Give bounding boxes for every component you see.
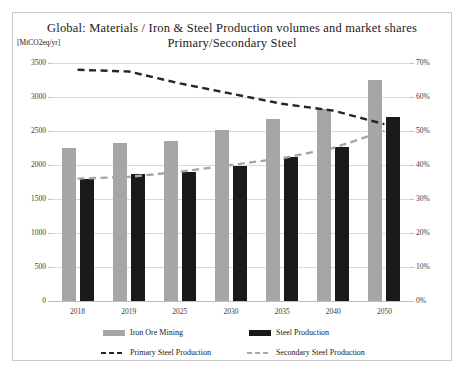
y-axis-right-tick-mark xyxy=(410,131,414,132)
y-axis-left-tick-label: 3000 xyxy=(31,92,46,101)
y-axis-right-tick-mark xyxy=(410,267,414,268)
x-axis-tick-label: 2025 xyxy=(172,307,187,316)
y-axis-right-tick-label: 10% xyxy=(416,262,430,271)
legend-label-steel-production: Steel Production xyxy=(276,328,329,337)
x-axis-tick-label: 2050 xyxy=(377,307,392,316)
y-axis-left-tick-label: 500 xyxy=(35,262,46,271)
legend-item-secondary-steel-production[interactable]: Secondary Steel Production xyxy=(247,348,365,357)
y-axis-right-tick-mark xyxy=(410,165,414,166)
y-axis-right-tick-label: 40% xyxy=(416,160,430,169)
y-axis-left-tick-label: 3500 xyxy=(31,58,46,67)
chart-title: Global: Materials / Iron & Steel Product… xyxy=(13,21,451,36)
y-axis-left-tick-mark xyxy=(48,301,52,302)
legend-label-primary-steel-production: Primary Steel Production xyxy=(130,348,211,357)
line-primary-steel-production xyxy=(78,70,385,124)
y-axis-left-tick-label: 1000 xyxy=(31,228,46,237)
legend-dash-icon-primary-steel-production xyxy=(101,350,125,356)
legend-label-iron-ore-mining: Iron Ore Mining xyxy=(130,328,183,337)
x-axis-tick-label: 2035 xyxy=(275,307,290,316)
y-axis-right-tick-label: 20% xyxy=(416,228,430,237)
legend-label-secondary-steel-production: Secondary Steel Production xyxy=(276,348,365,357)
x-axis-tick-label: 2030 xyxy=(224,307,239,316)
chart-container: Global: Materials / Iron & Steel Product… xyxy=(12,12,452,361)
line-secondary-steel-production xyxy=(78,131,385,179)
x-axis-tick-label: 2040 xyxy=(326,307,341,316)
y-axis-right-tick-mark xyxy=(410,63,414,64)
legend-item-steel-production[interactable]: Steel Production xyxy=(249,328,329,337)
trend-lines xyxy=(52,63,410,301)
gridline xyxy=(52,301,410,302)
y-axis-right-tick-mark xyxy=(410,301,414,302)
y-axis-right-tick-mark xyxy=(410,199,414,200)
y-axis-left-tick-label: 0 xyxy=(42,296,46,305)
y-axis-left-tick-label: 2500 xyxy=(31,126,46,135)
y-axis-right-tick-mark xyxy=(410,97,414,98)
plot-area: 0500100015002000250030003500 0%10%20%30%… xyxy=(52,63,410,301)
chart-subtitle: Primary/Secondary Steel xyxy=(13,36,451,51)
legend-swatch-icon-steel-production xyxy=(249,330,271,336)
y-axis-unit-label: [MtCO2eq/yr] xyxy=(17,38,60,47)
y-axis-right-tick-mark xyxy=(410,233,414,234)
y-axis-right-tick-label: 50% xyxy=(416,126,430,135)
y-axis-right-tick-label: 0% xyxy=(416,296,426,305)
y-axis-left-tick-label: 1500 xyxy=(31,194,46,203)
legend-dash-icon-secondary-steel-production xyxy=(247,350,271,356)
legend-item-primary-steel-production[interactable]: Primary Steel Production xyxy=(101,348,211,357)
y-axis-right-tick-label: 60% xyxy=(416,92,430,101)
legend-swatch-icon-iron-ore-mining xyxy=(103,330,125,336)
y-axis-right-tick-label: 70% xyxy=(416,58,430,67)
y-axis-right-tick-label: 30% xyxy=(416,194,430,203)
chart-title-block: Global: Materials / Iron & Steel Product… xyxy=(13,21,451,51)
y-axis-left-tick-label: 2000 xyxy=(31,160,46,169)
x-axis-tick-label: 2019 xyxy=(121,307,136,316)
x-axis-tick-label: 2018 xyxy=(70,307,85,316)
chart-legend: Iron Ore Mining Steel Production Primary… xyxy=(63,326,403,362)
legend-item-iron-ore-mining[interactable]: Iron Ore Mining xyxy=(103,328,183,337)
